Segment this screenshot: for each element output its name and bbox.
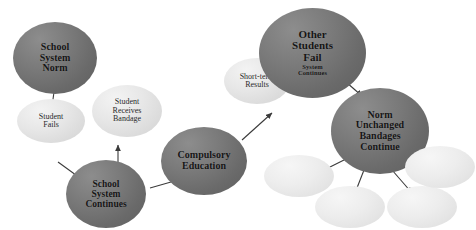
node-compulsory-education[interactable]: CompulsoryEducation — [161, 127, 247, 195]
node-student-fails[interactable]: StudentFails — [17, 99, 85, 143]
node-school-system-norm[interactable]: SchoolSystemNorm — [13, 22, 97, 94]
node-label-line: School — [93, 179, 120, 189]
node-label-line: Education — [182, 161, 226, 172]
node-outcome-right[interactable] — [405, 146, 475, 188]
node-label-line: Results — [245, 81, 269, 89]
node-other-students-fail[interactable]: OtherStudentsFailSystemContinues — [259, 8, 366, 98]
node-label-line: Continue — [360, 142, 399, 153]
node-label-line: System — [91, 189, 120, 199]
node-label-line: Fails — [43, 121, 59, 129]
node-label-line: Norm — [43, 63, 68, 74]
arrow-compulsory-to-short-term — [242, 113, 272, 140]
node-outcome-mid-left[interactable] — [315, 186, 385, 228]
node-outcome-mid-right[interactable] — [387, 186, 457, 228]
node-sublabel-line: Continues — [298, 70, 327, 77]
diagram-canvas: SchoolSystemNormStudentFailsStudentRecei… — [0, 0, 476, 230]
node-label-line: Continues — [85, 199, 126, 209]
node-student-receives-bandage[interactable]: StudentReceivesBandage — [92, 85, 162, 137]
node-outcome-left[interactable] — [264, 155, 334, 197]
node-label-line: Fail — [303, 52, 321, 64]
node-school-system-continues[interactable]: SchoolSystemContinues — [66, 160, 146, 228]
node-label-line: Bandage — [113, 115, 141, 123]
node-label-line: Bandages — [359, 131, 400, 142]
